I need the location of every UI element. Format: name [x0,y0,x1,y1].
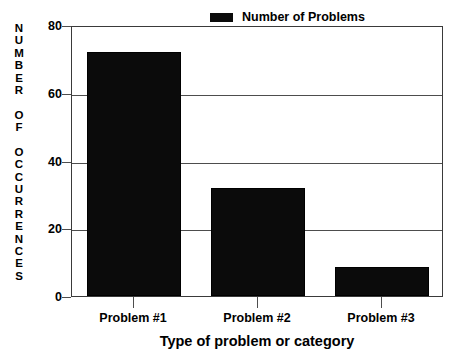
y-axis-title-char: E [15,220,23,232]
x-axis-tick-mark [257,297,258,308]
y-axis-title-char: N [15,233,23,245]
legend: Number of Problems [210,11,365,24]
x-axis-category-label: Problem #2 [223,311,290,326]
y-axis-tick-label: 60 [32,88,62,100]
y-axis-title-char: U [15,183,23,195]
y-axis-title-char: C [15,245,23,257]
y-axis-title-char: S [15,270,23,282]
y-axis-tick-label: 20 [32,223,62,235]
y-axis-title: NUMBEROFOCCURRENCES [8,22,30,302]
y-axis-tick-mark [62,229,71,230]
plot-area [71,26,443,297]
bar-chart: NUMBEROFOCCURRENCES 806040200 Number of … [0,0,466,364]
y-axis-title-char: R [15,208,23,220]
bar [87,52,181,296]
y-axis-title-char: E [15,257,23,269]
x-axis-title: Type of problem or category [71,333,443,350]
y-axis-tick-label: 80 [32,20,62,32]
y-axis-tick-mark [62,26,71,27]
legend-label-number-of-problems: Number of Problems [242,11,365,24]
y-axis-title-char: M [14,47,24,59]
x-axis-category-label: Problem #3 [347,311,414,326]
y-axis-title-char: O [15,109,24,121]
y-axis-tick-mark [62,162,71,163]
y-axis-title-char: C [15,171,23,183]
y-axis-title-char: O [15,146,24,158]
x-axis-category-labels: Problem #1Problem #2Problem #3 [71,311,443,327]
y-axis-tick-labels: 806040200 [30,0,62,364]
y-axis-title-char: F [15,121,22,133]
legend-swatch-number-of-problems [210,13,233,22]
y-axis-title-char: E [15,72,23,84]
y-axis-title-char: R [15,195,23,207]
x-axis-tick-mark [381,297,382,308]
y-axis-title-char: R [15,84,23,96]
y-axis-tick-label: 40 [32,156,62,168]
bar [211,188,305,296]
y-axis-tick-label: 0 [32,291,62,303]
y-axis-tick-mark [62,297,71,298]
y-axis-title-char: B [15,59,23,71]
y-axis-title-char: U [15,34,23,46]
y-axis-tick-mark [62,94,71,95]
x-axis-tick-mark [133,297,134,308]
y-axis-title-char: N [15,22,23,34]
x-axis-tick-marks [71,297,443,309]
x-axis-category-label: Problem #1 [99,311,166,326]
bar [335,267,429,296]
y-axis-title-char: C [15,158,23,170]
